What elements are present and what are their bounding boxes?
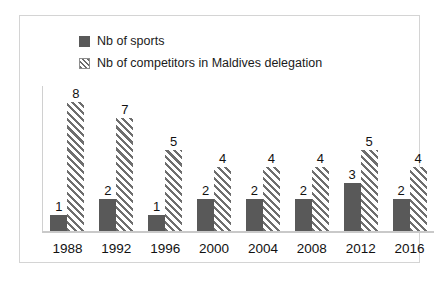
- bar-wrap-sports: 2: [197, 86, 214, 231]
- bar-sports[interactable]: [393, 199, 410, 231]
- bar-wrap-competitors: 5: [165, 86, 182, 231]
- x-axis-tick: 1988: [43, 238, 92, 260]
- plot-area: 1 8 2 7: [42, 86, 434, 232]
- bar-value-label: 1: [50, 200, 67, 213]
- bar-group-2008: 2 4: [287, 86, 336, 231]
- x-axis-tick: 1996: [141, 238, 190, 260]
- bar-competitors[interactable]: [410, 167, 427, 231]
- bar-value-label: 2: [246, 184, 263, 197]
- bar-value-label: 4: [312, 152, 329, 165]
- bar-value-label: 5: [361, 135, 378, 148]
- bar-group-1992: 2 7: [92, 86, 141, 231]
- bar-wrap-sports: 1: [50, 86, 67, 231]
- x-axis-baseline: [42, 231, 434, 233]
- legend-item-nb-of-sports[interactable]: Nb of sports: [79, 30, 409, 52]
- bar-value-label: 1: [148, 200, 165, 213]
- x-axis-tick: 2012: [336, 238, 385, 260]
- x-axis-tick: 2004: [239, 238, 288, 260]
- bar-group-1996: 1 5: [141, 86, 190, 231]
- bar-sports[interactable]: [344, 183, 361, 231]
- bar-sports[interactable]: [99, 199, 116, 231]
- bar-wrap-sports: 2: [246, 86, 263, 231]
- bar-wrap-competitors: 7: [116, 86, 133, 231]
- solid-square-icon: [79, 36, 90, 47]
- bar-group-2016: 2 4: [385, 86, 434, 231]
- bar-groups: 1 8 2 7: [43, 86, 434, 231]
- bar-wrap-competitors: 4: [263, 86, 280, 231]
- bar-sports[interactable]: [50, 215, 67, 231]
- bar-value-label: 3: [344, 168, 361, 181]
- bar-competitors[interactable]: [214, 167, 231, 231]
- x-axis-tick: 2016: [385, 238, 434, 260]
- bar-wrap-competitors: 8: [67, 86, 84, 231]
- bar-value-label: 2: [99, 184, 116, 197]
- bar-group-2012: 3 5: [336, 86, 385, 231]
- x-axis-tick: 2008: [287, 238, 336, 260]
- bar-competitors[interactable]: [312, 167, 329, 231]
- legend-item-nb-of-competitors[interactable]: Nb of competitors in Maldives delegation: [79, 52, 409, 74]
- legend-item-label: Nb of sports: [97, 35, 164, 48]
- bar-wrap-sports: 1: [148, 86, 165, 231]
- bar-value-label: 4: [263, 152, 280, 165]
- bar-competitors[interactable]: [361, 150, 378, 231]
- bar-wrap-competitors: 4: [312, 86, 329, 231]
- bar-value-label: 2: [197, 184, 214, 197]
- bar-value-label: 4: [410, 152, 427, 165]
- bar-wrap-sports: 2: [99, 86, 116, 231]
- bar-competitors[interactable]: [165, 150, 182, 231]
- bar-value-label: 8: [67, 87, 84, 100]
- legend-item-label: Nb of competitors in Maldives delegation: [97, 57, 322, 70]
- bar-sports[interactable]: [295, 199, 312, 231]
- bar-competitors[interactable]: [67, 102, 84, 231]
- bar-wrap-sports: 3: [344, 86, 361, 231]
- bar-sports[interactable]: [246, 199, 263, 231]
- bar-wrap-sports: 2: [295, 86, 312, 231]
- bar-group-2004: 2 4: [239, 86, 288, 231]
- bar-group-1988: 1 8: [43, 86, 92, 231]
- chart-legend: Nb of sports Nb of competitors in Maldiv…: [79, 30, 409, 74]
- hatched-square-icon: [79, 58, 90, 69]
- bar-value-label: 2: [393, 184, 410, 197]
- chart-frame: Nb of sports Nb of competitors in Maldiv…: [19, 15, 420, 263]
- bar-wrap-competitors: 4: [214, 86, 231, 231]
- bar-wrap-sports: 2: [393, 86, 410, 231]
- x-axis-labels: 1988 1992 1996 2000 2004 2008 2012 2016: [43, 238, 434, 260]
- bar-value-label: 4: [214, 152, 231, 165]
- bar-sports[interactable]: [148, 215, 165, 231]
- bar-sports[interactable]: [197, 199, 214, 231]
- x-axis-tick: 1992: [92, 238, 141, 260]
- bar-competitors[interactable]: [116, 118, 133, 231]
- bar-value-label: 2: [295, 184, 312, 197]
- x-axis-tick: 2000: [190, 238, 239, 260]
- bar-value-label: 7: [116, 103, 133, 116]
- bar-value-label: 5: [165, 135, 182, 148]
- bar-wrap-competitors: 4: [410, 86, 427, 231]
- bar-wrap-competitors: 5: [361, 86, 378, 231]
- bar-competitors[interactable]: [263, 167, 280, 231]
- bar-group-2000: 2 4: [190, 86, 239, 231]
